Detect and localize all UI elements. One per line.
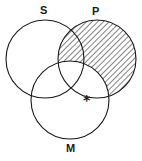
label-m: M (66, 143, 75, 154)
asterisk-mark: * (83, 93, 90, 107)
venn-diagram (0, 0, 142, 161)
shaded-region-p-not-m (0, 0, 142, 161)
label-s: S (40, 5, 47, 16)
label-p: P (92, 6, 99, 17)
